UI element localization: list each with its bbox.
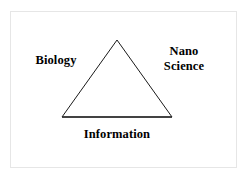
label-biology: Biology bbox=[30, 53, 82, 68]
label-nano-science: Nano Science bbox=[159, 44, 209, 74]
outer-frame bbox=[10, 11, 237, 168]
label-information: Information bbox=[77, 127, 157, 142]
figure-canvas: Biology Nano Science Information bbox=[0, 0, 247, 181]
